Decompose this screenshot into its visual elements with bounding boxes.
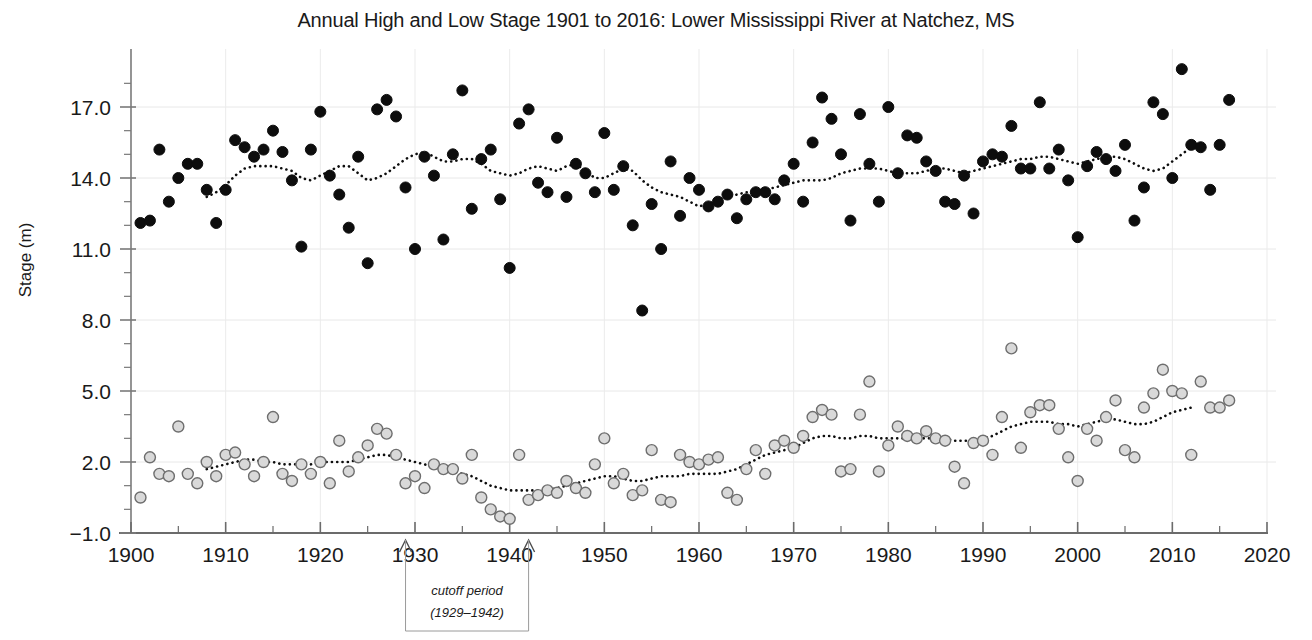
low-stage-point bbox=[400, 478, 411, 489]
high-stage-point bbox=[1082, 161, 1093, 172]
high-stage-point bbox=[305, 144, 316, 155]
high-stage-point bbox=[817, 92, 828, 103]
scatter-plot-canvas: −1.02.05.08.011.014.017.0 19001910192019… bbox=[0, 0, 1312, 640]
high-stage-point bbox=[154, 144, 165, 155]
low-stage-point bbox=[987, 449, 998, 460]
low-stage-point bbox=[959, 478, 970, 489]
high-stage-point bbox=[1205, 184, 1216, 195]
low-stage-point bbox=[315, 457, 326, 468]
low-stage-data-points bbox=[135, 343, 1235, 524]
low-stage-point bbox=[239, 459, 250, 470]
low-stage-point bbox=[1082, 423, 1093, 434]
x-axis-ticks bbox=[131, 522, 1267, 533]
high-stage-point bbox=[826, 113, 837, 124]
low-stage-point bbox=[646, 445, 657, 456]
low-stage-point bbox=[580, 487, 591, 498]
high-stage-point bbox=[1129, 215, 1140, 226]
x-tick-label: 1920 bbox=[297, 543, 344, 566]
low-stage-point bbox=[296, 459, 307, 470]
x-tick-label: 1990 bbox=[960, 543, 1007, 566]
x-axis-tick-labels: 1900191019201930194019501960197019801990… bbox=[108, 543, 1291, 566]
low-stage-point bbox=[940, 435, 951, 446]
low-stage-point bbox=[391, 449, 402, 460]
low-stage-point bbox=[1072, 475, 1083, 486]
high-stage-point bbox=[268, 125, 279, 136]
high-stage-point bbox=[731, 213, 742, 224]
high-stage-point bbox=[561, 191, 572, 202]
low-stage-point bbox=[1025, 407, 1036, 418]
low-stage-point bbox=[788, 442, 799, 453]
low-stage-point bbox=[476, 492, 487, 503]
low-stage-point bbox=[334, 435, 345, 446]
y-tick-label: 2.0 bbox=[82, 451, 111, 474]
low-stage-point bbox=[741, 464, 752, 475]
high-stage-point bbox=[286, 175, 297, 186]
high-stage-point bbox=[1214, 139, 1225, 150]
low-stage-point bbox=[618, 468, 629, 479]
high-stage-point bbox=[353, 151, 364, 162]
low-stage-point bbox=[911, 433, 922, 444]
high-stage-point bbox=[173, 173, 184, 184]
low-stage-point bbox=[457, 473, 468, 484]
low-stage-point bbox=[381, 428, 392, 439]
high-stage-point bbox=[201, 184, 212, 195]
y-tick-label: 11.0 bbox=[72, 238, 111, 261]
high-stage-point bbox=[457, 85, 468, 96]
high-stage-point bbox=[646, 199, 657, 210]
low-stage-point bbox=[883, 440, 894, 451]
high-stage-point bbox=[760, 187, 771, 198]
low-stage-point bbox=[230, 447, 241, 458]
high-stage-point bbox=[684, 173, 695, 184]
high-stage-point bbox=[144, 215, 155, 226]
low-stage-point bbox=[845, 464, 856, 475]
high-stage-point bbox=[959, 170, 970, 181]
low-stage-point bbox=[192, 478, 203, 489]
high-stage-point bbox=[1167, 173, 1178, 184]
high-stage-point bbox=[476, 154, 487, 165]
high-stage-point bbox=[447, 149, 458, 160]
low-stage-point bbox=[807, 412, 818, 423]
high-stage-point bbox=[343, 222, 354, 233]
low-stage-point bbox=[779, 435, 790, 446]
high-stage-point bbox=[769, 194, 780, 205]
low-stage-point bbox=[731, 494, 742, 505]
high-stage-point bbox=[883, 102, 894, 113]
low-stage-point bbox=[135, 492, 146, 503]
high-stage-point bbox=[362, 258, 373, 269]
high-stage-point bbox=[523, 104, 534, 115]
low-stage-point bbox=[163, 471, 174, 482]
high-stage-point bbox=[1148, 97, 1159, 108]
cutoff-label-line1: cutoff period bbox=[431, 583, 503, 598]
low-stage-point bbox=[362, 440, 373, 451]
low-stage-point bbox=[589, 459, 600, 470]
low-stage-point bbox=[1120, 445, 1131, 456]
low-stage-point bbox=[854, 409, 865, 420]
high-stage-point bbox=[637, 305, 648, 316]
high-stage-point bbox=[324, 170, 335, 181]
low-stage-point bbox=[277, 468, 288, 479]
low-stage-point bbox=[552, 487, 563, 498]
low-stage-point bbox=[343, 466, 354, 477]
high-stage-point bbox=[1176, 64, 1187, 75]
high-stage-point bbox=[514, 118, 525, 129]
high-stage-point bbox=[996, 151, 1007, 162]
high-stage-point bbox=[428, 170, 439, 181]
high-stage-point bbox=[1063, 175, 1074, 186]
high-stage-point bbox=[873, 196, 884, 207]
low-stage-point bbox=[1006, 343, 1017, 354]
high-stage-point bbox=[192, 158, 203, 169]
high-stage-point bbox=[675, 210, 686, 221]
low-stage-point bbox=[353, 452, 364, 463]
high-stage-point bbox=[570, 158, 581, 169]
high-stage-point bbox=[921, 156, 932, 167]
high-stage-point bbox=[372, 104, 383, 115]
low-stage-point bbox=[599, 433, 610, 444]
low-stage-point bbox=[978, 435, 989, 446]
high-stage-point bbox=[1025, 163, 1036, 174]
high-stage-point bbox=[485, 144, 496, 155]
low-stage-point bbox=[1129, 452, 1140, 463]
high-stage-point bbox=[466, 203, 477, 214]
high-stage-point bbox=[1091, 146, 1102, 157]
high-stage-point bbox=[334, 189, 345, 200]
low-stage-point bbox=[826, 409, 837, 420]
